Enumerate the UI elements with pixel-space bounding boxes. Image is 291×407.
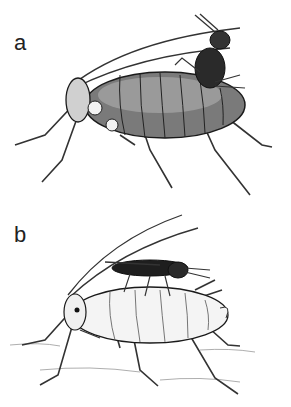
aphid-with-wasp-illustration-a: [0, 0, 291, 200]
aphid-with-wasp-illustration-b: [0, 200, 291, 407]
panel-a: a: [0, 0, 291, 200]
panel-b: b: [0, 200, 291, 407]
